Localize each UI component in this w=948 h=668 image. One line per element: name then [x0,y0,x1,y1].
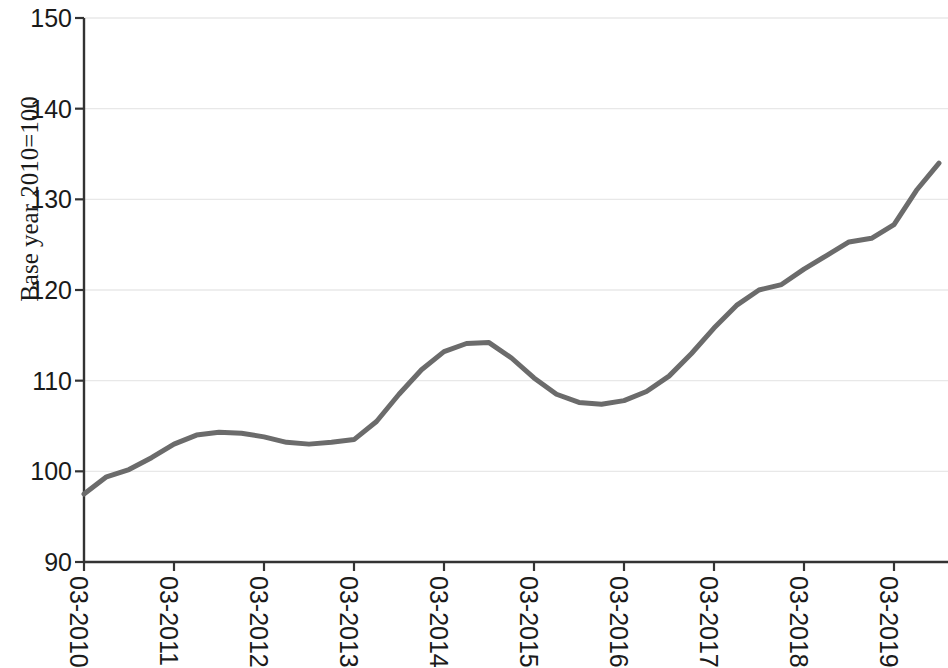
x-axis-tick-label: 03-2012 [244,576,273,668]
x-axis-tick-label: 03-2011 [154,576,183,666]
x-axis-tick-label: 03-2015 [514,576,543,668]
data-line-index [84,163,939,494]
x-axis-tick-label: 03-2017 [694,576,723,668]
x-axis-tick-label: 03-2013 [334,576,363,668]
x-axis-tick-label: 03-2014 [424,576,453,668]
x-axis-tick-label: 03-2010 [64,576,93,668]
x-axis-tick-label: 03-2019 [874,576,903,668]
x-axis-tick-label: 03-2018 [784,576,813,668]
x-axis-tick-label: 03-2016 [604,576,633,668]
